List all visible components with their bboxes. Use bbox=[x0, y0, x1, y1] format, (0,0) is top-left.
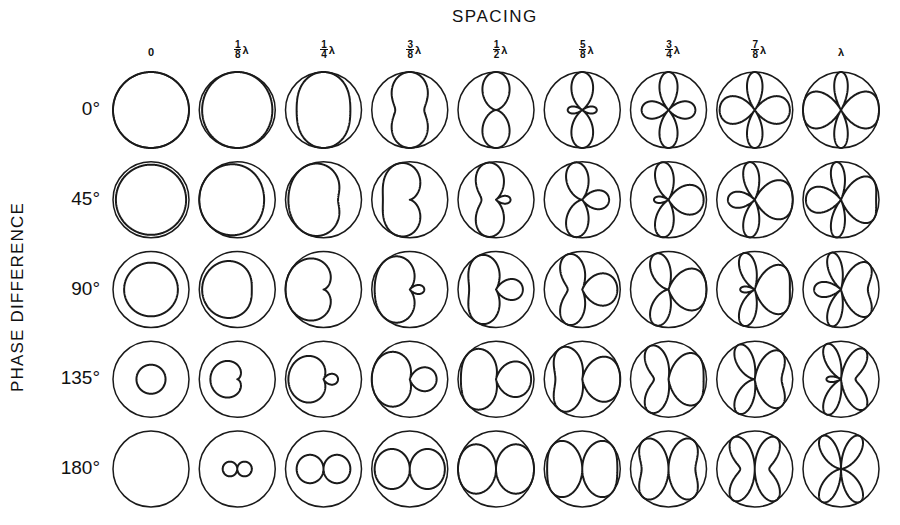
radiation-pattern-curve bbox=[202, 261, 252, 318]
pattern-cell-180-8 bbox=[803, 431, 879, 507]
radiation-pattern-curve bbox=[124, 263, 178, 317]
pattern-cell-0-2 bbox=[286, 72, 362, 148]
pattern-cell-45-0 bbox=[113, 162, 189, 238]
radiation-pattern-curve bbox=[734, 344, 784, 414]
pattern-cell-180-6 bbox=[631, 431, 707, 507]
pattern-cell-45-2 bbox=[286, 162, 362, 238]
radiation-pattern-curve bbox=[814, 253, 872, 327]
pattern-cell-90-7 bbox=[717, 252, 793, 328]
radiation-pattern-curve bbox=[297, 72, 351, 148]
pattern-cell-0-5 bbox=[544, 72, 620, 148]
pattern-cell-90-5 bbox=[544, 252, 620, 328]
pattern-cell-45-3 bbox=[372, 162, 448, 238]
pattern-cell-180-3 bbox=[372, 431, 448, 507]
pattern-cell-0-4 bbox=[458, 72, 534, 148]
radiation-pattern-curve bbox=[554, 347, 621, 412]
radiation-pattern-curve bbox=[116, 165, 186, 235]
pattern-cell-45-8 bbox=[803, 162, 879, 238]
unit-circle bbox=[113, 431, 189, 507]
pattern-cell-90-2 bbox=[286, 252, 362, 328]
polar-pattern-grid bbox=[0, 0, 900, 525]
pattern-cell-135-3 bbox=[372, 341, 448, 417]
radiation-pattern-curve bbox=[392, 72, 428, 148]
pattern-cell-135-6 bbox=[631, 341, 707, 417]
radiation-pattern-curve bbox=[199, 164, 264, 235]
pattern-cell-90-4 bbox=[458, 252, 534, 328]
pattern-cell-180-7 bbox=[717, 431, 793, 507]
pattern-cell-0-1 bbox=[199, 72, 275, 148]
pattern-cell-180-4 bbox=[458, 431, 534, 507]
radiation-pattern-curve bbox=[823, 344, 867, 415]
radiation-pattern-curve bbox=[819, 435, 863, 502]
radiation-pattern-curve bbox=[223, 462, 252, 477]
pattern-cell-135-4 bbox=[458, 341, 534, 417]
pattern-cell-45-1 bbox=[199, 162, 275, 238]
radiation-pattern-curve bbox=[288, 164, 339, 236]
pattern-cell-135-7 bbox=[717, 341, 793, 417]
radiation-pattern-curve bbox=[560, 254, 617, 325]
radiation-pattern-curve bbox=[468, 255, 523, 324]
radiation-pattern-curve bbox=[288, 356, 338, 403]
radiation-pattern-curve bbox=[458, 444, 534, 493]
radiation-pattern-curve bbox=[642, 72, 696, 148]
pattern-cell-180-1 bbox=[199, 431, 275, 507]
radiation-pattern-curve bbox=[113, 72, 189, 148]
pattern-cell-0-6 bbox=[631, 72, 707, 148]
radiation-pattern-curve bbox=[375, 256, 425, 322]
radiation-pattern-curve bbox=[547, 441, 617, 497]
unit-circle bbox=[372, 72, 448, 148]
radiation-pattern-curve bbox=[720, 72, 790, 148]
pattern-cell-45-6 bbox=[631, 162, 707, 238]
pattern-cell-45-5 bbox=[544, 162, 620, 238]
pattern-cell-0-0 bbox=[113, 72, 189, 148]
radiation-pattern-curve bbox=[730, 437, 780, 502]
radiation-pattern-curve bbox=[210, 361, 241, 398]
radiation-pattern-curve bbox=[202, 72, 272, 148]
pattern-cell-0-3 bbox=[372, 72, 448, 148]
pattern-cell-45-7 bbox=[717, 162, 793, 238]
pattern-cell-135-8 bbox=[803, 341, 879, 417]
radiation-pattern-curve bbox=[639, 438, 698, 499]
pattern-cell-180-0 bbox=[113, 431, 189, 507]
radiation-pattern-curve bbox=[383, 163, 421, 237]
radiation-pattern-curve bbox=[566, 162, 609, 237]
pattern-cell-0-8 bbox=[803, 72, 879, 148]
pattern-cell-90-8 bbox=[803, 252, 879, 328]
pattern-cell-135-1 bbox=[199, 341, 275, 417]
pattern-cell-135-0 bbox=[113, 341, 189, 417]
pattern-cell-180-2 bbox=[286, 431, 362, 507]
pattern-cell-90-1 bbox=[199, 252, 275, 328]
radiation-pattern-curve bbox=[297, 455, 351, 483]
unit-circle bbox=[113, 162, 189, 238]
radiation-pattern-curve bbox=[375, 449, 445, 489]
radiation-pattern-curve bbox=[482, 72, 509, 148]
radiation-pattern-curve bbox=[650, 253, 706, 325]
radiation-pattern-curve bbox=[476, 163, 511, 237]
unit-circle bbox=[113, 341, 189, 417]
pattern-cell-135-2 bbox=[286, 341, 362, 417]
radiation-pattern-curve bbox=[372, 352, 437, 407]
pattern-cell-180-5 bbox=[544, 431, 620, 507]
radiation-pattern-figure: SPACING PHASE DIFFERENCE 0°45°90°135°180… bbox=[0, 0, 900, 525]
pattern-cell-135-5 bbox=[544, 341, 620, 417]
radiation-pattern-curve bbox=[806, 162, 876, 237]
pattern-cell-0-7 bbox=[717, 72, 793, 148]
radiation-pattern-curve bbox=[568, 72, 597, 148]
pattern-cell-45-4 bbox=[458, 162, 534, 238]
pattern-cell-90-6 bbox=[631, 252, 707, 328]
pattern-cell-90-3 bbox=[372, 252, 448, 328]
radiation-pattern-curve bbox=[286, 258, 331, 320]
radiation-pattern-curve bbox=[461, 349, 531, 410]
unit-circle bbox=[199, 72, 275, 148]
radiation-pattern-curve bbox=[136, 365, 165, 394]
radiation-pattern-curve bbox=[645, 345, 704, 413]
pattern-cell-90-0 bbox=[113, 252, 189, 328]
